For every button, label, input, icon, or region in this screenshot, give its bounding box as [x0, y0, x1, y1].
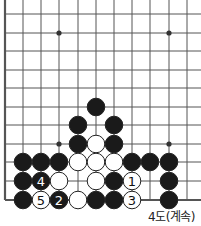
star-point-icon	[56, 141, 61, 146]
stones: 41523	[14, 98, 178, 209]
black-stone	[87, 191, 105, 209]
black-stone	[14, 153, 32, 171]
black-stone	[14, 191, 32, 209]
black-stone	[160, 172, 178, 190]
white-stone: 5	[32, 191, 50, 209]
white-stone	[105, 153, 123, 171]
black-stone	[14, 172, 32, 190]
black-stone	[141, 153, 159, 171]
white-stone: 3	[123, 191, 141, 209]
black-stone	[105, 135, 123, 153]
white-stone	[87, 172, 105, 190]
black-stone	[105, 191, 123, 209]
black-stone	[87, 98, 105, 116]
black-stone	[105, 116, 123, 134]
white-stone: 1	[123, 172, 141, 190]
white-stone	[69, 191, 87, 209]
black-stone: 2	[50, 191, 68, 209]
star-point-icon	[166, 141, 171, 146]
black-stone	[160, 153, 178, 171]
stone-move-number: 5	[37, 193, 45, 208]
black-stone	[50, 153, 68, 171]
black-stone: 4	[32, 172, 50, 190]
stone-move-number: 4	[37, 174, 45, 189]
white-stone	[87, 153, 105, 171]
stone-move-number: 1	[128, 174, 136, 189]
black-stone	[123, 153, 141, 171]
white-stone	[69, 153, 87, 171]
black-stone	[69, 135, 87, 153]
diagram-caption: 4도(계속)	[148, 207, 195, 224]
star-point-icon	[166, 30, 171, 35]
white-stone	[50, 172, 68, 190]
star-point-icon	[56, 30, 61, 35]
black-stone	[105, 172, 123, 190]
go-board-diagram: 41523	[0, 0, 201, 226]
stone-move-number: 3	[128, 193, 136, 208]
black-stone	[69, 116, 87, 134]
black-stone	[32, 153, 50, 171]
white-stone	[87, 135, 105, 153]
stone-move-number: 2	[55, 193, 63, 208]
